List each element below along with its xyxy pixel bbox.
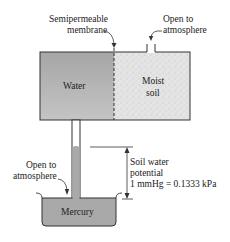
potential-label-2: potential [130, 168, 163, 179]
membrane-label-1: Semipermeable [49, 14, 108, 25]
vent-top-label-2: atmosphere [163, 25, 207, 36]
mercury-dish [0, 0, 36, 78]
diagram-canvas [0, 0, 230, 242]
membrane-label-2: membrane [67, 25, 107, 36]
mercury-label: Mercury [61, 207, 94, 218]
soil-label-2: soil [146, 88, 160, 99]
vent-left-leader [58, 179, 67, 190]
potential-label-1: Soil water [130, 157, 169, 168]
water-label: Water [63, 81, 85, 92]
vent-top-label-1: Open to [163, 14, 193, 25]
soil-label-1: Moist [142, 76, 164, 87]
vent-left-label-1: Open to [26, 160, 56, 171]
top-vent [147, 44, 155, 53]
mercury-column [73, 147, 80, 199]
potential-label-3: 1 mmHg = 0.1333 kPa [130, 179, 216, 190]
vent-left-label-2: atmosphere [13, 171, 57, 182]
